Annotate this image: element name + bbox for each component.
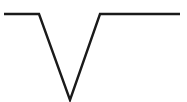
figure-canvas [0, 0, 187, 102]
polyline-drawing [0, 0, 187, 102]
background-rect [0, 0, 187, 102]
